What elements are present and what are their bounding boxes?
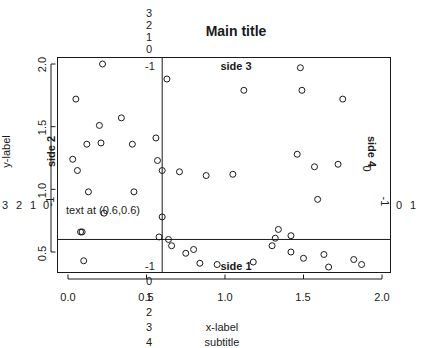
scatter-point	[275, 226, 281, 232]
scatter-point	[299, 87, 305, 93]
scatter-point	[294, 151, 300, 157]
scatter-point	[191, 246, 197, 252]
scatter-point	[169, 243, 175, 249]
scatter-point	[153, 135, 159, 141]
scatter-point	[214, 262, 220, 268]
scatter-point	[85, 189, 91, 195]
side3-label: side 3	[220, 61, 251, 72]
top-line-minus1: -1	[145, 61, 155, 72]
scatter-point	[311, 164, 317, 170]
x-tick-1: 0.5	[138, 292, 153, 303]
top-line-1: 1	[146, 32, 152, 43]
scatter-point	[183, 250, 189, 256]
y-tick-3: 0.5	[37, 242, 48, 266]
bottom-line-minus1: -1	[145, 261, 155, 272]
bottom-line-0: 0	[146, 276, 152, 287]
scatter-point	[326, 264, 332, 270]
scatter-point	[100, 61, 106, 67]
top-line-0: 0	[146, 44, 152, 55]
side2-label: side 2	[46, 129, 57, 175]
bottom-line-3: 3	[146, 322, 152, 333]
side1-label: side 1	[220, 261, 251, 272]
main-title: Main title	[206, 24, 267, 38]
scatter-point	[164, 76, 170, 82]
scatter-point	[131, 189, 137, 195]
x-tick-3: 1.5	[295, 292, 310, 303]
bottom-line-4: 4	[146, 337, 152, 348]
scatter-point	[176, 169, 182, 175]
top-line-2: 2	[146, 20, 152, 31]
scatter-point	[96, 122, 102, 128]
scatter-point	[301, 255, 307, 261]
bottom-line-2: 2	[146, 307, 152, 318]
scatter-point	[98, 140, 104, 146]
right-line-1: 1	[410, 200, 416, 211]
scatter-point	[340, 96, 346, 102]
y-axis-label: y-label	[1, 122, 12, 182]
scatter-point	[84, 141, 90, 147]
point-annotation-text: text at (0.6,0.6)	[0, 205, 140, 216]
x-tick-2: 1.0	[217, 292, 232, 303]
scatter-point	[129, 141, 135, 147]
scatter-point	[272, 235, 278, 241]
right-line-0: 0	[396, 200, 402, 211]
scatter-point	[315, 196, 321, 202]
scatter-point	[203, 173, 209, 179]
subtitle: subtitle	[205, 337, 240, 348]
x-tick-4: 2.0	[374, 292, 389, 303]
right-inner-zero: 0	[361, 161, 372, 177]
scatter-point	[154, 158, 160, 164]
scatter-point	[118, 115, 124, 121]
top-line-3: 3	[146, 8, 152, 19]
scatter-point	[241, 87, 247, 93]
x-axis-label: x-label	[206, 322, 238, 333]
scatter-point	[269, 243, 275, 249]
scatter-point	[74, 168, 80, 174]
scatter-point	[73, 96, 79, 102]
right-line-minus1: -1	[379, 194, 390, 210]
scatter-point	[359, 262, 365, 268]
x-tick-0: 0.0	[60, 292, 75, 303]
scatter-point	[197, 260, 203, 266]
scatter-point	[297, 65, 303, 71]
scatter-point	[81, 258, 87, 264]
scatter-point	[288, 233, 294, 239]
scatter-point	[70, 156, 76, 162]
scatter-points	[70, 61, 365, 270]
scatter-point	[230, 171, 236, 177]
scatter-point	[351, 257, 357, 263]
y-tick-0: 2.0	[37, 53, 48, 77]
scatter-point	[321, 252, 327, 258]
scatter-point	[335, 161, 341, 167]
scatter-point	[288, 249, 294, 255]
